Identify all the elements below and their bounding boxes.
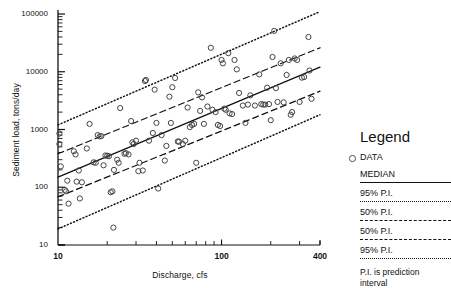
- legend: Legend DATA MEDIAN 95% P.I. 50% P.I. 50%…: [347, 128, 446, 288]
- x-tick-label: 10: [38, 251, 78, 261]
- data-point: [185, 105, 190, 110]
- data-point: [164, 143, 169, 148]
- data-point: [170, 85, 175, 90]
- trend-line-95-p-i-lower: [58, 115, 320, 229]
- legend-item-0-label: 95% P.I.: [360, 188, 393, 198]
- x-axis-title: Discharge, cfs: [120, 270, 240, 280]
- trend-line-50-p-i-lower: [58, 91, 320, 197]
- data-point: [168, 120, 173, 125]
- data-point: [232, 57, 237, 62]
- legend-swatch-solid-line: [360, 182, 451, 183]
- legend-item-0: 95% P.I.: [360, 188, 446, 207]
- data-point: [219, 57, 224, 62]
- data-point: [111, 225, 116, 230]
- data-point: [167, 94, 172, 99]
- data-point: [63, 189, 68, 194]
- y-tick-label: 1000: [0, 125, 48, 134]
- legend-swatch-dashed-line: [360, 220, 451, 221]
- data-point: [270, 54, 275, 59]
- trend-lines-group: [58, 12, 320, 229]
- data-point: [116, 160, 121, 165]
- data-point: [220, 61, 225, 66]
- data-point: [172, 75, 177, 80]
- data-point: [284, 72, 289, 77]
- data-point: [65, 178, 70, 183]
- legend-item-2-label: 50% P.I.: [360, 226, 393, 236]
- data-point: [245, 102, 250, 107]
- plot-svg: [0, 0, 330, 288]
- data-point: [201, 121, 206, 126]
- data-point: [266, 102, 271, 107]
- legend-item-1-label: 50% P.I.: [360, 207, 393, 217]
- data-point: [268, 118, 273, 123]
- legend-swatch-dotted-line: [360, 201, 451, 202]
- data-point: [74, 179, 79, 184]
- legend-title: Legend: [360, 128, 446, 145]
- legend-item-3-label: 95% P.I.: [360, 245, 393, 255]
- data-point: [115, 157, 120, 162]
- data-point: [156, 186, 161, 191]
- open-circle-marker-icon: [349, 155, 356, 162]
- data-point: [154, 120, 159, 125]
- data-point: [257, 72, 262, 77]
- legend-swatch-dashed-line: [360, 239, 451, 240]
- data-point: [62, 187, 67, 192]
- data-point: [152, 87, 157, 92]
- y-tick-label: 10000: [0, 67, 48, 76]
- legend-item-data-label: DATA: [360, 152, 383, 162]
- y-tick-label: 100: [0, 182, 48, 191]
- data-point: [66, 201, 71, 206]
- axes-group: [58, 10, 320, 245]
- x-tick-label: 400: [300, 251, 340, 261]
- legend-item-data: DATA: [360, 152, 446, 169]
- data-point: [118, 105, 123, 110]
- data-point: [226, 51, 231, 56]
- data-point: [198, 108, 203, 113]
- data-point: [236, 90, 241, 95]
- legend-item-median-label: MEDIAN: [360, 169, 395, 179]
- data-point: [205, 104, 210, 109]
- y-tick-label: 10: [0, 240, 48, 249]
- x-tick-label: 100: [202, 251, 242, 261]
- data-point: [84, 146, 89, 151]
- y-tick-label: 100000: [0, 9, 48, 18]
- data-point: [129, 118, 134, 123]
- data-point: [275, 99, 280, 104]
- data-point: [306, 34, 311, 39]
- data-point: [162, 158, 167, 163]
- data-point: [281, 100, 286, 105]
- data-point: [111, 167, 116, 172]
- data-point: [234, 67, 239, 72]
- legend-swatch-dotted-line: [360, 258, 451, 259]
- legend-item-median: MEDIAN: [360, 169, 446, 188]
- data-point: [309, 96, 314, 101]
- legend-item-3: 95% P.I.: [360, 245, 446, 264]
- data-point: [58, 164, 63, 169]
- data-point: [110, 189, 115, 194]
- data-point: [87, 121, 92, 126]
- data-point: [196, 90, 201, 95]
- data-point: [79, 180, 84, 185]
- data-point: [208, 45, 213, 50]
- trend-line-95-p-i-upper: [58, 12, 320, 125]
- legend-item-1: 50% P.I.: [360, 207, 446, 226]
- chart-canvas: Sediment load, tons/day Discharge, cfs 1…: [0, 0, 330, 288]
- data-point: [77, 196, 82, 201]
- data-point: [252, 103, 257, 108]
- data-point: [101, 163, 106, 168]
- data-point: [150, 130, 155, 135]
- data-point: [194, 160, 199, 165]
- data-points-group: [57, 28, 314, 230]
- data-point: [240, 103, 245, 108]
- legend-note: P.I. is prediction interval: [360, 267, 448, 288]
- legend-item-2: 50% P.I.: [360, 226, 446, 245]
